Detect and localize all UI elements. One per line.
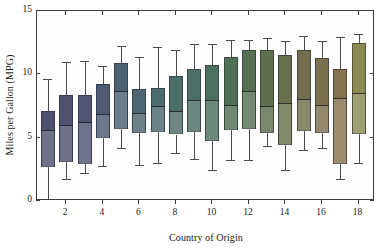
- y-tick-mark-right: [370, 73, 374, 74]
- x-axis-label: Country of Origin: [36, 232, 376, 243]
- y-tick-label: 15: [6, 5, 32, 15]
- x-tick-label: 8: [163, 208, 187, 218]
- y-tick-mark-right: [370, 137, 374, 138]
- lower-whisker-line: [359, 134, 360, 163]
- x-tick-label: 18: [346, 208, 370, 218]
- x-tick-mark-top: [321, 11, 322, 15]
- x-tick-mark: [175, 200, 176, 204]
- median-line: [352, 93, 366, 94]
- box-plot-group[interactable]: [37, 11, 373, 199]
- y-tick-label: 5: [6, 132, 32, 142]
- x-tick-mark-top: [102, 11, 103, 15]
- lower-whisker-cap: [354, 163, 363, 164]
- x-tick-mark-top: [358, 11, 359, 15]
- x-tick-mark-top: [175, 11, 176, 15]
- box-plot-figure: Miles per Gallon (MPG) Country of Origin…: [0, 0, 377, 250]
- x-tick-mark-top: [65, 11, 66, 15]
- x-tick-label: 16: [309, 208, 333, 218]
- x-tick-label: 10: [199, 208, 223, 218]
- plot-area: [36, 10, 374, 200]
- box-lower-half-shade: [353, 94, 365, 135]
- y-tick-mark: [36, 73, 40, 74]
- x-tick-mark: [102, 200, 103, 204]
- y-axis-label: Miles per Gallon (MPG): [2, 5, 18, 205]
- x-tick-mark-top: [138, 11, 139, 15]
- x-tick-label: 14: [272, 208, 296, 218]
- upper-whisker-line: [359, 34, 360, 43]
- box-rect[interactable]: [352, 43, 366, 134]
- y-tick-mark: [36, 10, 40, 11]
- x-tick-mark: [211, 200, 212, 204]
- x-tick-mark: [248, 200, 249, 204]
- x-tick-mark-top: [248, 11, 249, 15]
- y-tick-mark: [36, 200, 40, 201]
- x-tick-label: 12: [236, 208, 260, 218]
- y-tick-mark-right: [370, 10, 374, 11]
- y-tick-mark-right: [370, 200, 374, 201]
- box-series-container: [37, 11, 373, 199]
- x-tick-label: 4: [90, 208, 114, 218]
- x-tick-mark: [284, 200, 285, 204]
- x-tick-mark: [138, 200, 139, 204]
- x-tick-mark-top: [284, 11, 285, 15]
- y-tick-label: 0: [6, 195, 32, 205]
- x-tick-label: 2: [53, 208, 77, 218]
- x-tick-mark: [65, 200, 66, 204]
- x-tick-mark: [358, 200, 359, 204]
- x-tick-label: 6: [126, 208, 150, 218]
- y-tick-mark: [36, 137, 40, 138]
- x-tick-mark-top: [211, 11, 212, 15]
- y-tick-label: 10: [6, 68, 32, 78]
- x-tick-mark: [321, 200, 322, 204]
- upper-whisker-cap: [354, 34, 363, 35]
